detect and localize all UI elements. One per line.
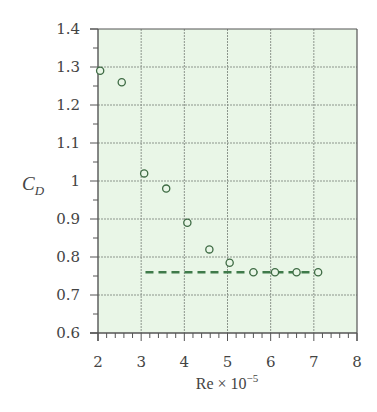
y-tick-label: 0.8 [56, 248, 80, 266]
y-tick-label: 1.3 [56, 58, 80, 76]
data-point-marker [271, 269, 278, 276]
x-tick-labels: 2345678 [93, 353, 362, 371]
y-tick-label: 0.7 [56, 286, 80, 304]
x-tick-label: 7 [309, 353, 319, 371]
data-point-marker [293, 269, 300, 276]
y-tick-label: 1 [70, 172, 80, 190]
x-tick-label: 6 [266, 353, 276, 371]
x-tick-label: 4 [180, 353, 190, 371]
data-point-marker [141, 170, 148, 177]
x-axis-label: Re × 10−5 [196, 372, 259, 392]
y-tick-labels: 0.60.70.80.911.11.21.31.4 [56, 20, 80, 342]
data-point-marker [97, 67, 104, 74]
x-tick-label: 5 [223, 353, 233, 371]
y-tick-label: 1.1 [56, 134, 80, 152]
y-axis-label: CD [22, 173, 45, 198]
chart: 2345678 0.60.70.80.911.11.21.31.4 CD Re … [0, 0, 377, 412]
data-point-marker [206, 246, 213, 253]
x-tick-label: 3 [136, 353, 146, 371]
data-point-marker [184, 219, 191, 226]
y-tick-label: 1.2 [56, 96, 80, 114]
y-tick-label: 1.4 [56, 20, 80, 38]
data-point-marker [118, 79, 125, 86]
x-tick-label: 2 [93, 353, 103, 371]
x-tick-label: 8 [352, 353, 362, 371]
data-point-marker [226, 259, 233, 266]
data-point-marker [163, 185, 170, 192]
data-point-marker [315, 269, 322, 276]
y-tick-label: 0.6 [56, 324, 80, 342]
y-tick-label: 0.9 [56, 210, 80, 228]
data-point-marker [250, 269, 257, 276]
